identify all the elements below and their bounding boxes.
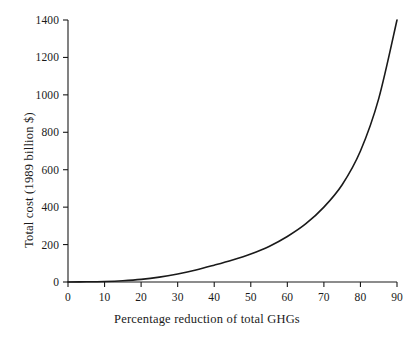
y-axis-tick-label: 1400 — [0, 14, 59, 26]
chart-plot-area — [0, 0, 414, 337]
x-axis-tick-label: 70 — [318, 291, 330, 303]
y-axis-tick-label: 0 — [0, 276, 59, 288]
y-axis-title: Total cost (1989 billion $) — [22, 112, 37, 248]
chart-figure: 0200400600800100012001400 01020304050607… — [0, 0, 414, 337]
x-axis-tick-label: 90 — [391, 291, 403, 303]
x-axis-tick-label: 80 — [355, 291, 367, 303]
x-axis-tick-label: 0 — [65, 291, 71, 303]
x-axis-tick-label: 30 — [172, 291, 184, 303]
x-axis-tick-label: 40 — [208, 291, 220, 303]
y-axis-tick-label: 1000 — [0, 89, 59, 101]
x-axis-tick-label: 20 — [135, 291, 147, 303]
x-axis-title: Percentage reduction of total GHGs — [0, 312, 414, 327]
x-axis-tick-label: 60 — [281, 291, 293, 303]
x-axis-ticks — [68, 282, 397, 287]
y-axis-ticks — [63, 20, 68, 282]
y-axis-tick-label: 1200 — [0, 51, 59, 63]
x-axis-tick-label: 10 — [99, 291, 111, 303]
x-axis-tick-label: 50 — [245, 291, 257, 303]
cost-curve-line — [68, 20, 397, 282]
